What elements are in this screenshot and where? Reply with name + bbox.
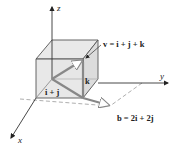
x-axis-label: x <box>17 135 22 145</box>
z-axis-label: z <box>56 3 61 13</box>
vector-diagram: z y x v = i + j + k k i + j b = 2i + 2j <box>0 0 176 148</box>
b-label: b = 2i + 2j <box>117 113 154 123</box>
i-plus-j-label: i + j <box>45 87 59 97</box>
x-axis <box>11 98 36 138</box>
k-label: k <box>85 76 90 86</box>
y-axis-label: y <box>159 71 164 81</box>
v-label: v = i + j + k <box>103 39 145 49</box>
